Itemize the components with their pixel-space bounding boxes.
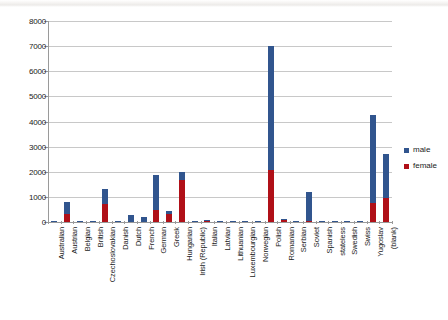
bar-slot[interactable] xyxy=(303,21,316,222)
y-axis-tick-label: 7000 xyxy=(6,42,46,51)
bar-segment-male[interactable] xyxy=(166,211,172,214)
x-axis-category-label: Italian xyxy=(210,227,219,246)
x-axis-tick xyxy=(175,221,176,224)
x-axis-category-label: Swiss xyxy=(363,227,372,246)
bar-slot[interactable] xyxy=(175,21,188,222)
bar-segment-female[interactable] xyxy=(281,220,287,222)
bar-segment-male[interactable] xyxy=(141,217,147,221)
bar-slot[interactable] xyxy=(226,21,239,222)
x-axis-category-label: French xyxy=(147,227,156,250)
bar-segment-female[interactable] xyxy=(370,203,376,222)
bar-segment-female[interactable] xyxy=(204,221,210,222)
bar-slot[interactable] xyxy=(341,21,354,222)
bar-segment-female[interactable] xyxy=(306,221,312,222)
x-axis-tick xyxy=(239,221,240,224)
x-axis-category-label: Romanian xyxy=(287,227,296,260)
bar-segment-male[interactable] xyxy=(319,221,325,222)
bar-slot[interactable] xyxy=(290,21,303,222)
bar-segment-male[interactable] xyxy=(179,172,185,180)
x-axis-category-label: Dutch xyxy=(134,227,143,246)
bar-slot[interactable] xyxy=(73,21,86,222)
bar-slot[interactable] xyxy=(201,21,214,222)
x-axis-tick xyxy=(112,221,113,224)
bar-slot[interactable] xyxy=(99,21,112,222)
bar-slot[interactable] xyxy=(379,21,392,222)
bar-segment-female[interactable] xyxy=(268,170,274,222)
x-axis-tick xyxy=(379,221,380,224)
x-axis-category-label: Luxembourgian xyxy=(248,227,257,277)
bar-slot[interactable] xyxy=(112,21,125,222)
x-axis-tick xyxy=(137,221,138,224)
x-axis-category-label: Greek xyxy=(172,227,181,247)
bar-slot[interactable] xyxy=(48,21,61,222)
bar-slot[interactable] xyxy=(150,21,163,222)
x-axis-tick xyxy=(265,221,266,224)
bar-slot[interactable] xyxy=(188,21,201,222)
bar-slot[interactable] xyxy=(316,21,329,222)
y-axis-tick-label: 8000 xyxy=(6,17,46,26)
x-axis-category-label: Yugoslav xyxy=(376,227,385,257)
bar-segment-female[interactable] xyxy=(383,198,389,222)
bar-segment-male[interactable] xyxy=(102,189,108,204)
x-axis-tick xyxy=(316,221,317,224)
x-axis-category-label: Spanish xyxy=(325,227,334,253)
bar-segment-male[interactable] xyxy=(281,219,287,220)
legend-swatch-female-icon xyxy=(404,164,409,169)
bar-segment-male[interactable] xyxy=(370,115,376,203)
bar-segment-male[interactable] xyxy=(306,192,312,221)
bar-segment-male[interactable] xyxy=(332,221,338,222)
x-axis-tick xyxy=(367,221,368,224)
bar-segment-male[interactable] xyxy=(344,221,350,222)
bar-segment-male[interactable] xyxy=(115,221,121,222)
bar-slot[interactable] xyxy=(277,21,290,222)
legend-swatch-male-icon xyxy=(404,148,409,153)
bar-segment-male[interactable] xyxy=(128,215,134,221)
bar-segment-female[interactable] xyxy=(102,204,108,222)
y-axis-tick-label: 5000 xyxy=(6,92,46,101)
bar-segment-male[interactable] xyxy=(51,221,57,222)
bar-segment-male[interactable] xyxy=(204,220,210,221)
bar-slot[interactable] xyxy=(163,21,176,222)
bar-segment-male[interactable] xyxy=(153,175,159,210)
y-axis-tick-label: 1000 xyxy=(6,192,46,201)
bar-slot[interactable] xyxy=(328,21,341,222)
x-axis-tick xyxy=(188,221,189,224)
x-axis-labels: AustralianAustrianBelgianBritishCzechosl… xyxy=(48,224,392,318)
bar-slot[interactable] xyxy=(61,21,74,222)
bar-segment-male[interactable] xyxy=(217,221,223,222)
bar-segment-male[interactable] xyxy=(268,46,274,170)
bar-slot[interactable] xyxy=(239,21,252,222)
bar-segment-male[interactable] xyxy=(90,221,96,222)
bar-segment-male[interactable] xyxy=(383,154,389,198)
x-axis-category-label: German xyxy=(159,227,168,254)
x-axis-category-label: Czechoslovakian xyxy=(108,227,117,282)
bar-segment-female[interactable] xyxy=(153,210,159,222)
bar-slot[interactable] xyxy=(367,21,380,222)
bar-slot[interactable] xyxy=(86,21,99,222)
bar-segment-male[interactable] xyxy=(64,202,70,214)
bar-segment-male[interactable] xyxy=(242,221,248,222)
bar-segment-male[interactable] xyxy=(255,221,261,222)
bar-segment-male[interactable] xyxy=(230,221,236,222)
bar-slot[interactable] xyxy=(124,21,137,222)
bar-segment-male[interactable] xyxy=(77,221,83,222)
x-axis-category-label: Polish xyxy=(274,227,283,247)
bar-segment-male[interactable] xyxy=(357,221,363,222)
bar-slot[interactable] xyxy=(214,21,227,222)
x-axis-category-label: Hungarian xyxy=(185,227,194,261)
legend-label-female: female xyxy=(413,162,437,170)
bar-segment-male[interactable] xyxy=(192,221,198,222)
bar-slot[interactable] xyxy=(265,21,278,222)
legend-item-female: female xyxy=(404,162,437,170)
bar-slot[interactable] xyxy=(137,21,150,222)
x-axis-tick xyxy=(61,221,62,224)
x-axis-category-label: Soviet xyxy=(312,227,321,247)
bar-segment-female[interactable] xyxy=(64,214,70,222)
bar-segment-female[interactable] xyxy=(179,180,185,222)
chart-legend: male female xyxy=(404,146,437,178)
bar-slot[interactable] xyxy=(354,21,367,222)
bar-segment-female[interactable] xyxy=(166,214,172,222)
x-axis-tick xyxy=(150,221,151,224)
bar-segment-male[interactable] xyxy=(293,221,299,222)
bar-slot[interactable] xyxy=(252,21,265,222)
